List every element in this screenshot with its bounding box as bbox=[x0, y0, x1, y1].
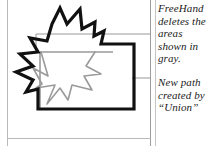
deleted-rectangle-remnant-shape bbox=[40, 52, 113, 109]
union-outline-shape bbox=[16, 8, 134, 109]
union-diagram-artwork bbox=[0, 0, 152, 146]
caption-union-note: New path created by “Union” bbox=[158, 76, 216, 114]
deleted-star-remnant-shape bbox=[33, 52, 101, 104]
page-rule-divider-outer bbox=[155, 0, 156, 146]
figure-page: FreeHand deletes the areas shown in gray… bbox=[0, 0, 217, 146]
caption-delete-note: FreeHand deletes the areas shown in gray… bbox=[158, 2, 216, 65]
